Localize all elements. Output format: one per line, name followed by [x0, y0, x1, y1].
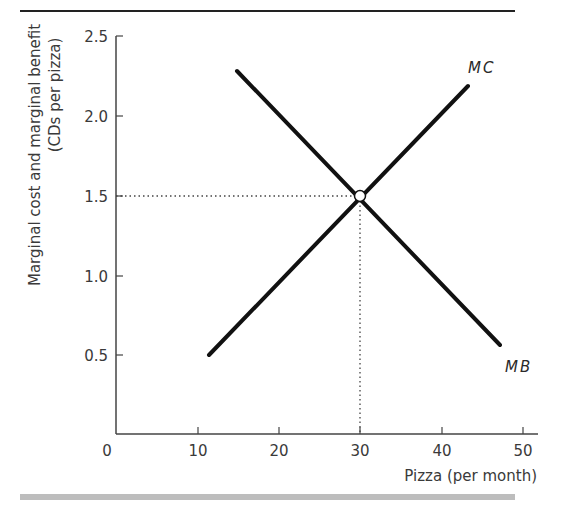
- mc-label: MC: [468, 59, 495, 77]
- x-axis-label: Pizza (per month): [404, 467, 537, 485]
- y-tick-label: 1.5: [84, 188, 108, 206]
- y-axis-label-line2: (CDs per pizza): [46, 38, 64, 153]
- y-axis-label-line1: Marginal cost and marginal benefit: [26, 24, 44, 286]
- x-tick-labels: 0 10 20 30 40 50: [102, 442, 532, 460]
- bottom-rule: [20, 494, 515, 500]
- y-tick-labels: 2.5 2.0 1.5 1.0 0.5: [84, 28, 108, 365]
- x-tick-label: 0: [102, 442, 112, 460]
- y-tick-label: 2.5: [84, 28, 108, 46]
- equilibrium-point: [355, 191, 366, 202]
- x-tick-label: 50: [513, 442, 532, 460]
- mb-curve: [237, 71, 500, 345]
- mc-curve: [209, 86, 468, 355]
- x-tick-label: 20: [269, 442, 288, 460]
- chart: Marginal cost and marginal benefit (CDs …: [0, 0, 564, 515]
- y-tick-label: 0.5: [84, 347, 108, 365]
- y-tick-label: 2.0: [84, 108, 108, 126]
- x-tick-label: 40: [432, 442, 451, 460]
- x-tick-label: 30: [350, 442, 369, 460]
- x-tick-label: 10: [188, 442, 207, 460]
- mb-label: MB: [505, 358, 532, 376]
- y-tick-label: 1.0: [84, 268, 108, 286]
